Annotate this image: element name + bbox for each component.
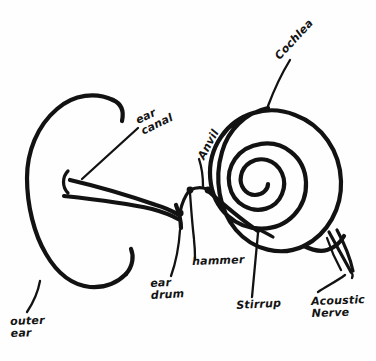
anvil-leader-line — [199, 159, 203, 186]
hammer-bone — [180, 191, 189, 212]
hammer-long-process — [190, 193, 194, 239]
cochlea-leader-line — [268, 60, 290, 106]
acoustic-nerve-leader-line — [318, 275, 345, 292]
label-ear-drum: ear drum — [150, 276, 185, 301]
outer-ear-concha-notch — [64, 171, 69, 193]
anvil-bone — [190, 188, 207, 190]
acoustic-nerve-tip — [351, 272, 353, 278]
ear-anatomy-diagram: outer ear ear canal Anvil Cochlea ear dr… — [0, 0, 376, 361]
ear-canal-leader-line — [82, 128, 138, 179]
hammer-drum-joint-blob — [176, 209, 183, 216]
outer-ear-upper-lobe — [113, 100, 123, 121]
outer-ear-leader-line — [27, 281, 40, 312]
label-outer-ear: outer ear — [10, 315, 45, 339]
label-acoustic-nerve: Acoustic Nerve — [311, 294, 366, 319]
label-stirrup: Stirrup — [236, 298, 281, 312]
outer-ear-lower-lobe — [126, 249, 133, 274]
label-hammer: hammer — [192, 254, 245, 267]
ear-drum-leader-line — [171, 230, 180, 276]
cochlea-spiral — [210, 108, 341, 251]
